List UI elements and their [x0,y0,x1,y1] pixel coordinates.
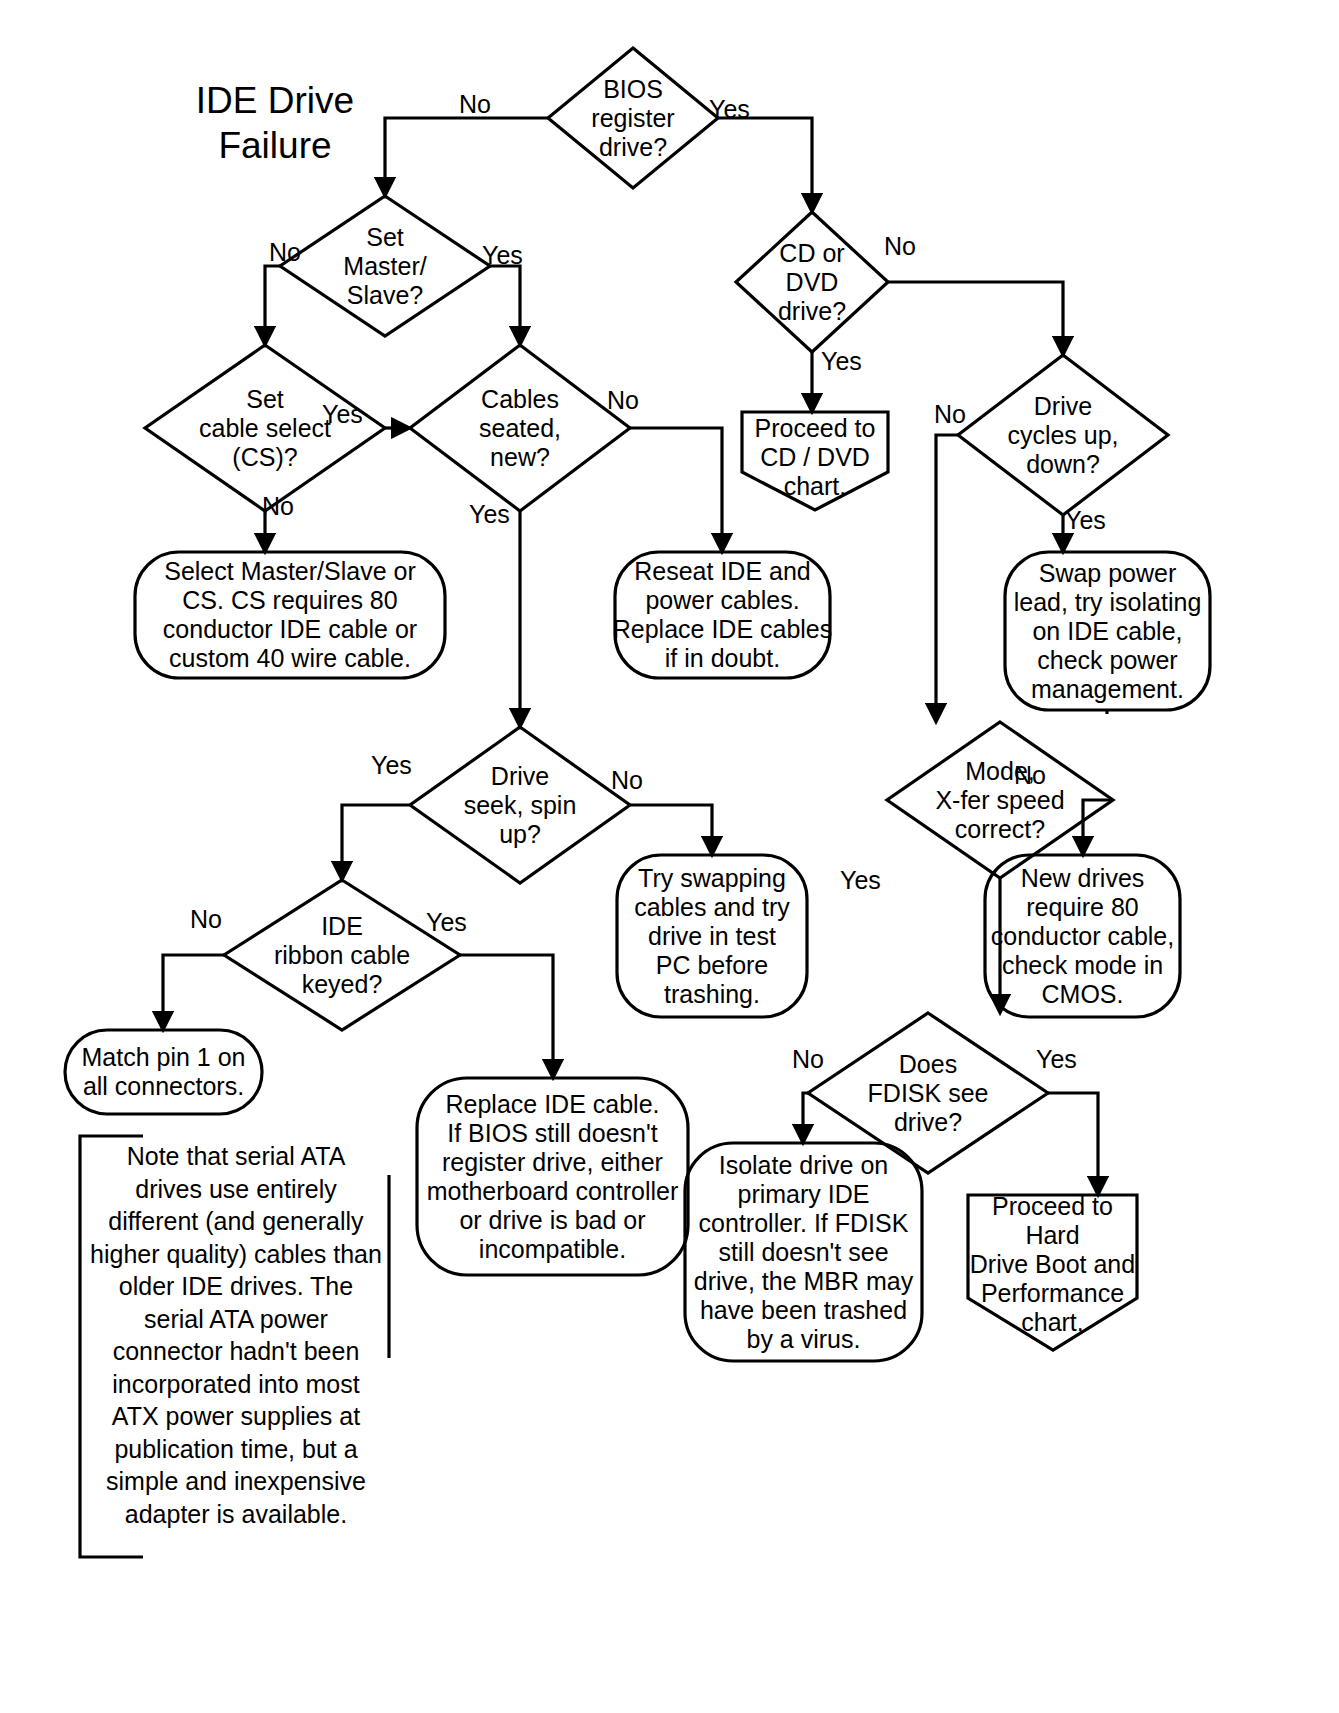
edge-keyed-yes [460,955,553,1070]
edge-mode-no [1083,800,1113,847]
edge-label-fdisk-no: No [792,1047,824,1072]
serial-ata-note: Note that serial ATA drives use entirely… [90,1140,382,1530]
edge-master-no [265,266,280,337]
terminal-proceed-hard-drive [968,1195,1137,1350]
edge-cables-no [630,428,722,544]
edge-label-cs-no: No [262,494,294,519]
edge-seek-no [630,805,712,847]
flowchart-canvas: IDE Drive Failure BIOS register drive? S… [0,0,1339,1713]
edge-keyed-no [163,955,224,1022]
terminal-proceed-cd-dvd [742,412,888,510]
edge-label-mode-no: No [1014,763,1046,788]
action-reseat-ide [615,552,830,678]
action-replace-ide-cable [417,1078,688,1275]
action-match-pin-1 [65,1030,262,1114]
edge-label-cycles-no: No [934,402,966,427]
decision-ide-ribbon-keyed [224,880,460,1030]
decision-cables-seated [410,345,630,511]
edge-label-cycles-yes: Yes [1065,508,1106,533]
edge-label-mode-yes: Yes [840,868,881,893]
edge-seek-yes [342,805,410,872]
edge-label-bios-yes: Yes [709,97,750,122]
edge-label-seek-yes: Yes [371,753,412,778]
edge-label-cables-yes: Yes [469,502,510,527]
action-select-master-slave-cs [135,552,445,678]
edge-label-seek-no: No [611,768,643,793]
edge-label-bios-no: No [459,92,491,117]
decision-set-master-slave [280,196,490,336]
edge-label-cddvd-yes: Yes [821,349,862,374]
edge-label-cddvd-no: No [884,234,916,259]
decision-drive-seek [410,727,630,883]
edge-label-master-no: No [269,240,301,265]
edge-fdisk-no [803,1093,808,1135]
decision-drive-cycles [958,355,1168,515]
decision-set-cable-select [145,345,385,511]
decision-fdisk-see-drive [808,1013,1048,1173]
decision-cd-or-dvd [736,212,888,352]
edge-label-master-yes: Yes [482,243,523,268]
edge-label-keyed-no: No [190,907,222,932]
page-title: IDE Drive Failure [130,78,420,168]
edge-cycles-no [936,435,958,714]
edge-label-cables-no: No [607,388,639,413]
action-try-swapping-cables [617,855,807,1017]
edge-fdisk-yes [1048,1093,1098,1187]
edge-cddvd-no [888,282,1063,347]
edge-label-fdisk-yes: Yes [1036,1047,1077,1072]
action-new-drives-80-conductor [985,855,1180,1017]
edge-label-cs-yes: Yes [322,402,363,427]
action-isolate-drive [685,1143,922,1361]
edge-label-keyed-yes: Yes [426,910,467,935]
action-swap-power-lead [1005,552,1210,710]
edge-master-yes [490,266,520,337]
edge-bios-yes [718,118,812,204]
decision-bios-register [548,48,718,188]
